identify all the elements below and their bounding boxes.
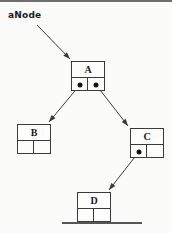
C-left-to-D-line [109,153,138,190]
node-a-pointers [72,78,104,91]
node-c[interactable]: C [130,128,164,158]
pointer-dot [94,82,99,87]
pointer-dot [136,149,141,154]
node-b-value: B [18,125,50,141]
node-a-right-pointer[interactable] [88,78,104,91]
node-d-left-pointer[interactable] [78,209,94,222]
anode-label: aNode [8,10,41,20]
A-right-to-C-arrowhead [122,119,128,126]
A-left-to-B-line [49,86,79,122]
node-c-left-pointer[interactable] [131,145,147,158]
node-d-right-pointer[interactable] [94,209,110,222]
node-a[interactable]: A [71,61,105,91]
node-d-pointers [78,209,110,222]
node-d[interactable]: D [77,192,111,222]
anode-to-A-line [37,25,70,59]
node-a-value: A [72,62,104,78]
node-c-right-pointer[interactable] [147,145,163,158]
pointer-dot [77,82,82,87]
node-a-left-pointer[interactable] [72,78,88,91]
node-b[interactable]: B [17,124,51,154]
C-left-to-D-arrowhead [109,183,115,190]
node-d-value: D [78,193,110,209]
A-right-to-C-line [97,86,128,126]
node-c-pointers [131,145,163,158]
node-b-left-pointer[interactable] [18,141,34,154]
diagram-canvas: aNode A B C D [0,0,172,233]
node-b-pointers [18,141,50,154]
node-b-right-pointer[interactable] [34,141,50,154]
node-c-value: C [131,129,163,145]
